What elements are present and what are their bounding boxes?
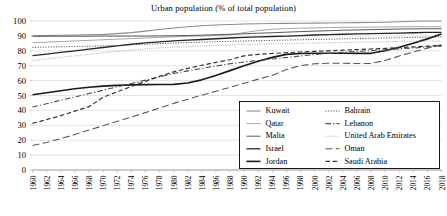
x-tick-label: 1966 <box>71 175 80 190</box>
legend-label-saudi-arabia: Saudi Arabia <box>345 157 388 166</box>
x-tick-label: 2014 <box>409 175 418 190</box>
y-tick-label: 0 <box>22 165 26 175</box>
x-tick-label: 2008 <box>367 175 376 190</box>
y-tick-label: 20 <box>17 135 26 145</box>
x-axis-tick-labels: 1960196219641966196819701972197419761978… <box>29 170 447 190</box>
legend-label-bahrain: Bahrain <box>345 106 371 115</box>
legend-label-israel: Israel <box>266 144 285 153</box>
y-tick-label: 60 <box>17 76 26 86</box>
chart-title: Urban population (% of total population) <box>0 3 447 13</box>
x-tick-label: 1968 <box>85 175 94 190</box>
x-tick-label: 1980 <box>170 175 179 190</box>
y-axis-tick-labels: 0102030405060708090100 <box>13 16 32 175</box>
x-tick-label: 1960 <box>29 175 38 190</box>
chart-container: Urban population (% of total population)… <box>0 0 447 216</box>
y-tick-label: 90 <box>17 31 26 41</box>
legend-label-kuwait: Kuwait <box>266 106 291 115</box>
y-tick-label: 30 <box>17 120 26 130</box>
x-tick-label: 1964 <box>57 175 66 190</box>
x-tick-label: 2012 <box>395 175 404 190</box>
x-tick-label: 1982 <box>184 175 193 190</box>
x-tick-label: 1994 <box>268 175 277 190</box>
chart-legend: KuwaitQatarMaltaIsraelJordanBahrainLeban… <box>240 102 440 169</box>
y-tick-label: 10 <box>17 150 26 160</box>
legend-label-lebanon: Lebanon <box>345 119 374 128</box>
x-tick-label: 1996 <box>282 175 291 190</box>
legend-label-jordan: Jordan <box>266 157 288 166</box>
x-tick-label: 2004 <box>339 175 348 190</box>
x-tick-label: 1974 <box>127 175 136 190</box>
x-tick-label: 2018 <box>438 175 447 190</box>
x-tick-label: 1990 <box>240 175 249 190</box>
x-tick-label: 1972 <box>113 175 122 190</box>
x-tick-label: 1998 <box>296 175 305 190</box>
series-line-bahrain <box>33 37 442 47</box>
x-tick-label: 2016 <box>423 175 432 190</box>
y-tick-label: 50 <box>17 91 26 101</box>
x-tick-label: 1976 <box>141 175 150 190</box>
x-tick-label: 2006 <box>353 175 362 190</box>
x-tick-label: 2002 <box>325 175 334 190</box>
legend-label-oman: Oman <box>345 144 365 153</box>
line-chart: 0102030405060708090100 19601962196419661… <box>0 0 447 216</box>
x-tick-label: 2010 <box>381 175 390 190</box>
y-tick-label: 40 <box>17 105 26 115</box>
legend-label-malta: Malta <box>266 131 285 140</box>
y-tick-label: 80 <box>17 46 26 56</box>
x-tick-label: 1988 <box>226 175 235 190</box>
x-tick-label: 1986 <box>212 175 221 190</box>
x-tick-label: 1970 <box>99 175 108 190</box>
x-tick-label: 1978 <box>155 175 164 190</box>
x-tick-label: 1984 <box>198 175 207 190</box>
x-tick-label: 2000 <box>311 175 320 190</box>
x-tick-label: 1962 <box>43 175 52 190</box>
series-line-lebanon <box>33 46 442 107</box>
y-tick-label: 100 <box>13 16 26 26</box>
legend-label-qatar: Qatar <box>266 119 284 128</box>
x-tick-label: 1992 <box>254 175 263 190</box>
legend-label-united-arab-emirates: United Arab Emirates <box>345 131 416 140</box>
y-tick-label: 70 <box>17 61 26 71</box>
